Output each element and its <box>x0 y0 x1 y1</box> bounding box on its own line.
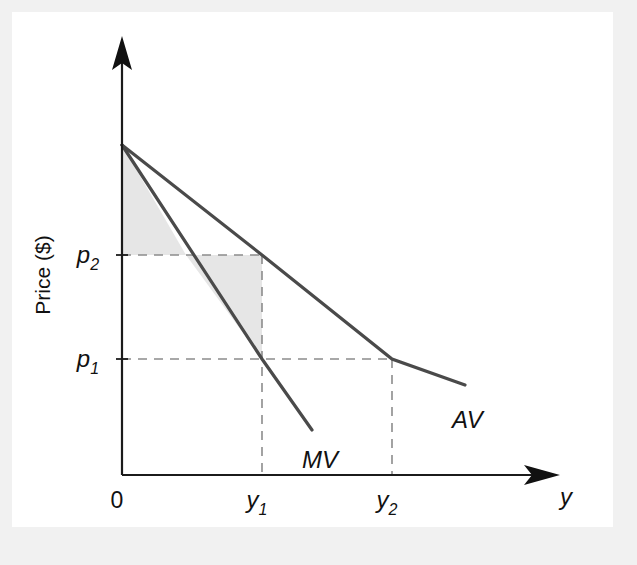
y-axis-label: Price ($) <box>31 235 54 314</box>
tick-label-p1: p1 <box>76 345 99 377</box>
economics-chart: Price ($) p2 p1 0 y1 y2 y MV AV <box>0 0 637 565</box>
tick-label-y1: y1 <box>245 486 268 518</box>
tick-label-y2: y2 <box>375 486 398 518</box>
curve-mv <box>122 145 312 430</box>
curve-label-mv: MV <box>302 446 340 473</box>
tick-label-p2: p2 <box>76 241 99 273</box>
x-axis-label: y <box>558 483 574 510</box>
curve-av <box>122 145 465 385</box>
curve-label-av: AV <box>450 406 485 433</box>
origin-label: 0 <box>111 487 124 513</box>
figure-root: Price ($) p2 p1 0 y1 y2 y MV AV <box>0 0 637 565</box>
